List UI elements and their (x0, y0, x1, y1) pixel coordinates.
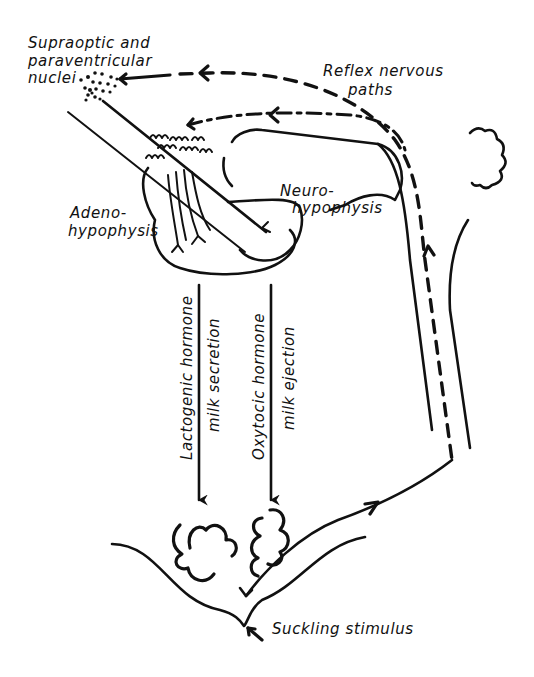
reflex-paths-label: Reflex nervous paths (323, 62, 444, 99)
pituitary (68, 101, 402, 274)
lactation-reflex-diagram: Supraoptic and paraventricular nuclei Re… (0, 0, 534, 677)
afferent-nerve (246, 460, 452, 596)
oxytocic-hormone-label: Oxytocic hormone milk ejection (250, 313, 298, 460)
hypothalamic-fibers (146, 135, 212, 158)
reflex-arrow-up (424, 246, 434, 256)
suckling-stimulus-label: Suckling stimulus (272, 620, 414, 638)
spinal-cord-left-edge (378, 144, 432, 430)
spinal-cord-right-edge (450, 220, 470, 448)
alveoli-right (268, 510, 288, 565)
nuclei-dots (79, 71, 118, 101)
lactogenic-hormone-text: Lactogenic hormone (178, 296, 196, 460)
reflex-label-line2: paths (347, 81, 393, 99)
alveoli-left-bottom (173, 525, 214, 581)
neuro-label-line1: Neuro- (280, 182, 334, 200)
adenohypophysis-label: Adeno- hypophysis (68, 204, 159, 240)
milk-secretion-text: milk secretion (205, 318, 223, 432)
alveoli-left-top (189, 525, 236, 556)
breast-outline (112, 537, 365, 626)
reflex-arrow-2 (270, 108, 278, 122)
nuclei-label-line3: nuclei (28, 69, 77, 87)
oxytocic-hormone-text: Oxytocic hormone (250, 313, 268, 460)
alveoli-right-inner (251, 518, 262, 576)
nuclei-label-line2: paraventricular (27, 52, 152, 70)
milk-ejection-text: milk ejection (280, 326, 298, 430)
spinal-cord (378, 128, 506, 448)
brain-outline (470, 128, 506, 188)
nuclei-label-line1: Supraoptic and (28, 34, 150, 52)
lactogenic-hormone-label: Lactogenic hormone milk secretion (178, 296, 223, 460)
adenohypophysis-shape (143, 168, 295, 274)
neurohypophysis-label: Neuro- hypophysis (280, 182, 383, 217)
reflex-label-line1: Reflex nervous (323, 62, 444, 80)
adeno-label-line1: Adeno- (69, 204, 127, 222)
mammary-gland (112, 460, 452, 640)
supraoptic-tract (103, 101, 266, 232)
adeno-label-line2: hypophysis (68, 222, 159, 240)
